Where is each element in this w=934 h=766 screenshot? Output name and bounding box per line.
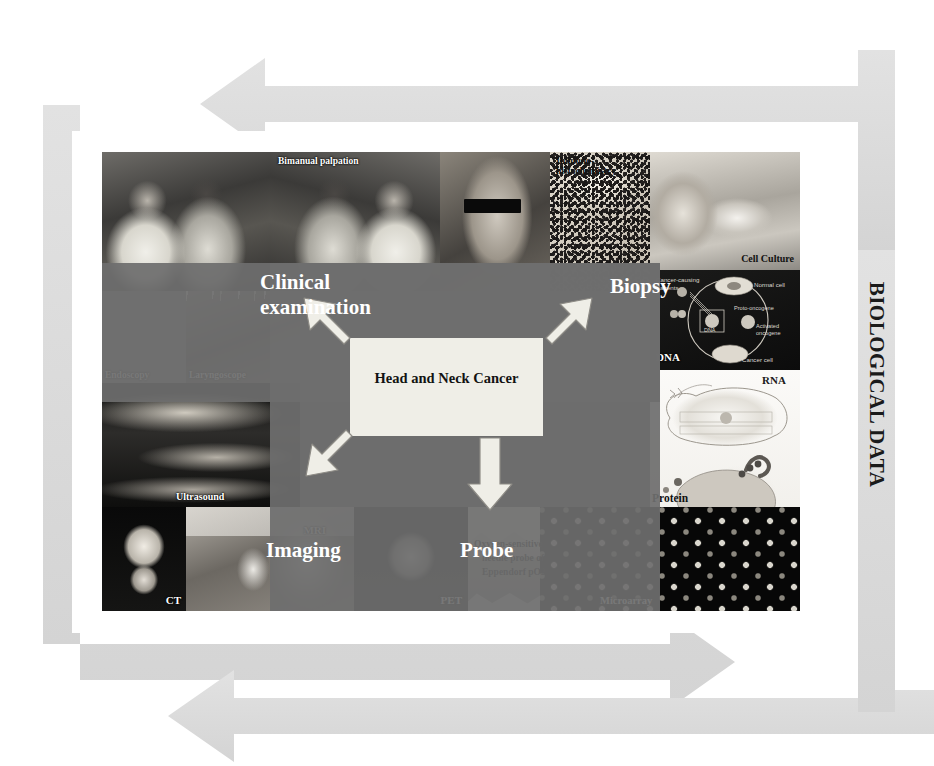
clinical-line2: examination bbox=[260, 295, 371, 320]
quadrant-label-probe: Probe bbox=[460, 538, 513, 563]
arrow-to-imaging-icon bbox=[306, 430, 352, 476]
clinical-line1: Clinical bbox=[260, 270, 371, 295]
quadrant-label-biopsy: Biopsy bbox=[610, 274, 671, 299]
diagnostics-collage: Bimanual palpation Immuno- histochemistr… bbox=[102, 152, 800, 611]
arrow-to-probe-icon bbox=[468, 438, 512, 510]
quadrant-label-clinical-examination: Clinical examination bbox=[260, 270, 371, 320]
center-label-head-and-neck-cancer: Head and Neck Cancer bbox=[350, 370, 543, 387]
quadrant-label-imaging: Imaging bbox=[266, 538, 341, 563]
outer-arrow-return bbox=[168, 670, 934, 762]
arrow-to-biopsy-icon bbox=[546, 298, 592, 344]
biological-data-label: BIOLOGICAL DATA bbox=[864, 235, 889, 535]
